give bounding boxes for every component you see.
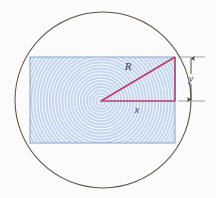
geometry-figure: R x y xyxy=(0,0,216,198)
figure-canvas: R x y xyxy=(0,0,216,198)
label-vertical-y: y xyxy=(188,73,194,84)
label-horizontal-x: x xyxy=(134,104,140,115)
label-radius-R: R xyxy=(124,60,132,72)
